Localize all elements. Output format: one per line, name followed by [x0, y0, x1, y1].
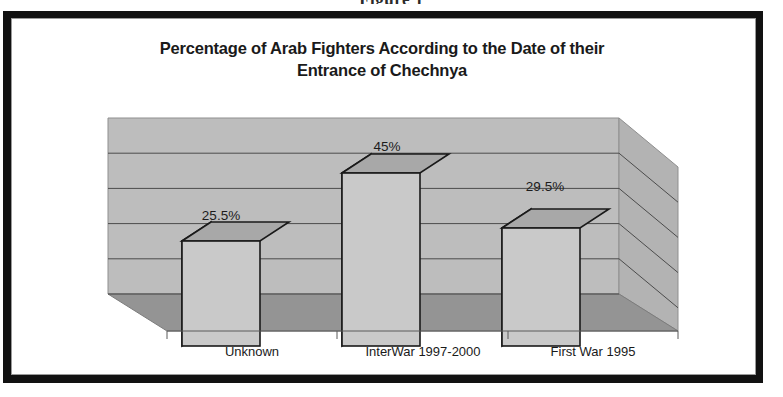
data-label-unknown: 25.5% [202, 208, 240, 223]
axis-label-interwar: InterWar 1997-2000 [365, 344, 480, 359]
axis-label-unknown: Unknown [225, 344, 279, 359]
chart-card: Percentage of Arab Fighters According to… [11, 18, 756, 375]
axis-label-firstwar: First War 1995 [551, 344, 636, 359]
figure-caption: Figure 1 [0, 0, 783, 4]
figure-frame: Percentage of Arab Fighters According to… [3, 11, 763, 383]
plot-area: 25.5% 45% 29.5% Unknown InterWar 1997-20… [12, 19, 756, 373]
data-label-interwar: 45% [373, 139, 400, 154]
data-label-firstwar: 29.5% [526, 179, 564, 194]
